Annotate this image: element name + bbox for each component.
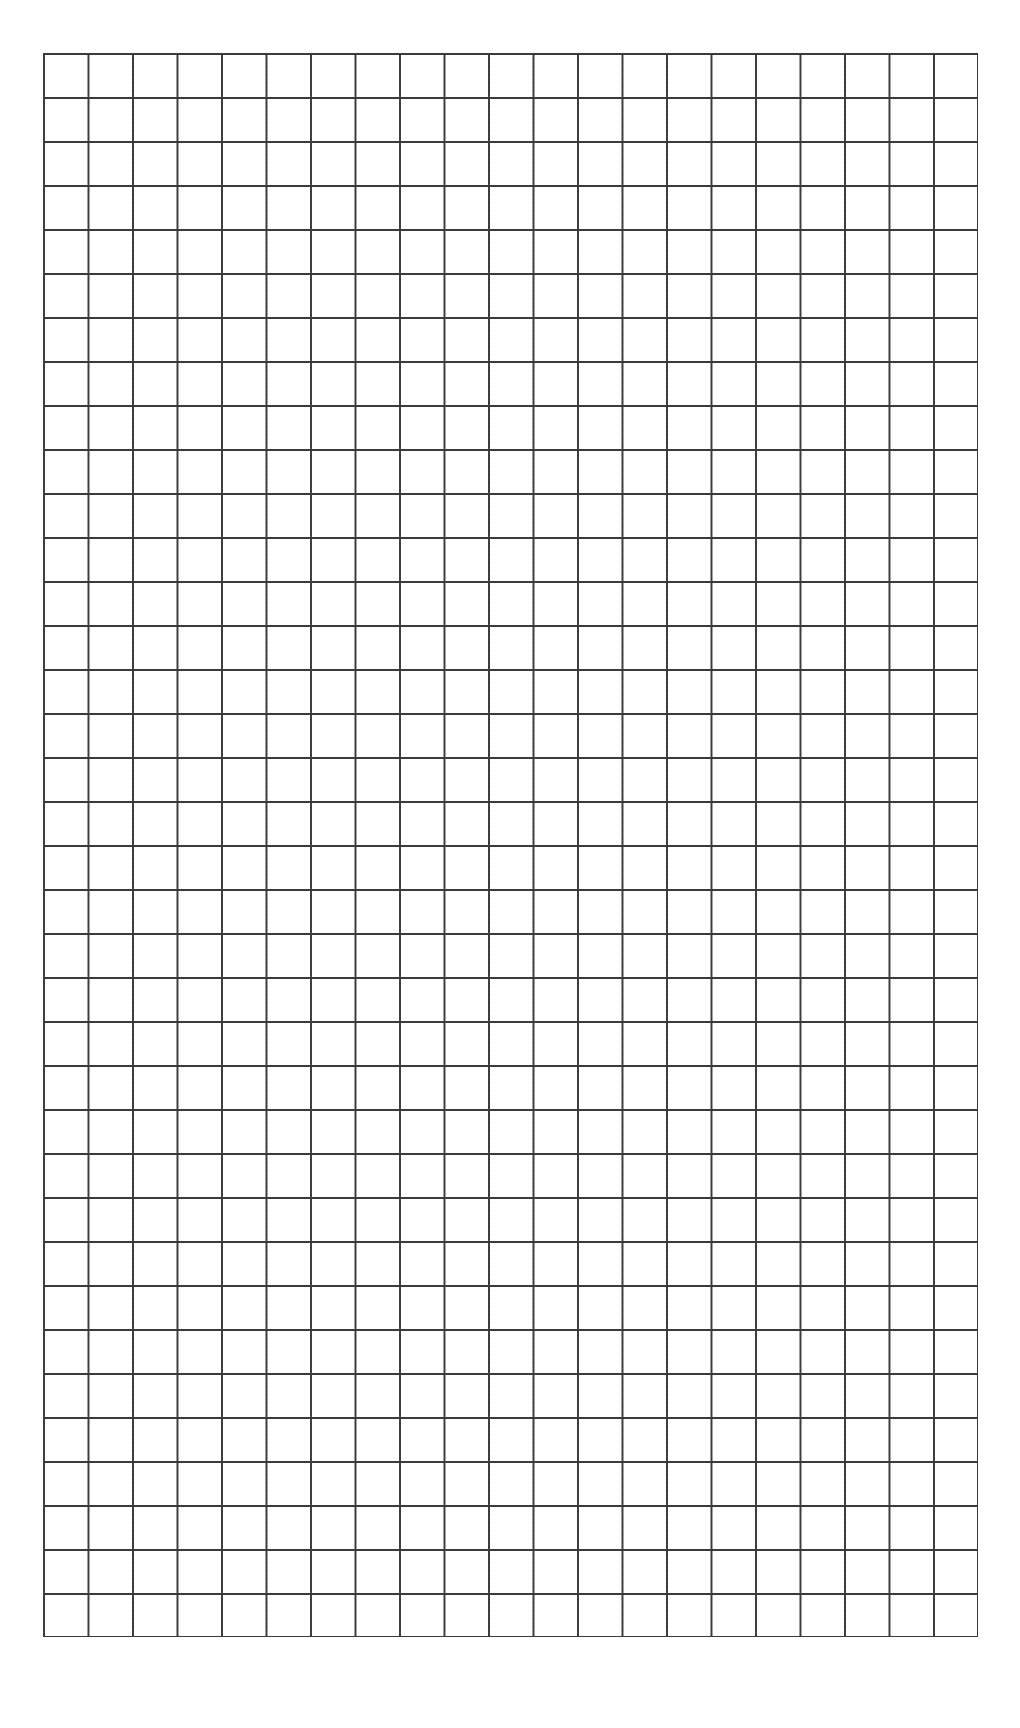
page-canvas xyxy=(0,0,1020,1728)
grid-paper-sheet xyxy=(43,53,978,1637)
